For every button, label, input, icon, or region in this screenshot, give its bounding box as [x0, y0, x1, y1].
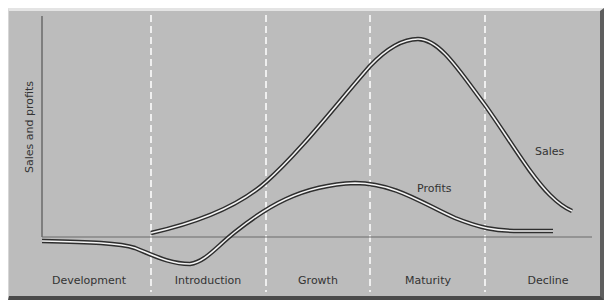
stage-label-decline: Decline [527, 274, 568, 287]
stage-label-maturity: Maturity [405, 274, 451, 287]
stage-label-introduction: Introduction [175, 274, 242, 287]
y-axis-label: Sales and profits [23, 81, 36, 173]
profits-label: Profits [417, 182, 451, 195]
stage-label-growth: Growth [298, 274, 338, 287]
sales-label: Sales [535, 145, 564, 158]
stage-dividers [151, 15, 485, 292]
stage-label-development: Development [52, 274, 126, 287]
sales-curve [151, 39, 572, 233]
profits-curve [42, 183, 553, 264]
plot-area [0, 0, 609, 304]
